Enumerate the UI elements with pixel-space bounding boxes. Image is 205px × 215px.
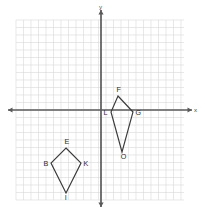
vertex-label-b: B (44, 159, 49, 168)
coordinate-plane-svg: EKIBFGOL x y (0, 0, 205, 215)
x-axis-arrow-right (188, 107, 193, 112)
y-axis-arrow-down (98, 203, 103, 208)
vertex-label-o: O (121, 152, 127, 161)
vertex-label-g: G (136, 108, 142, 117)
x-axis-arrow-left (8, 107, 13, 112)
vertex-label-l: L (104, 108, 108, 117)
shape-kite-fgol (111, 96, 133, 152)
coordinate-graph-figure: EKIBFGOL x y (0, 0, 205, 215)
vertex-label-k: K (84, 159, 89, 168)
vertex-label-i: I (65, 193, 67, 202)
y-axis-arrow-up (98, 10, 103, 15)
x-axis-label: x (194, 106, 198, 113)
vertex-label-e: E (65, 137, 70, 146)
vertex-label-f: F (117, 85, 122, 94)
y-axis-label: y (99, 3, 103, 10)
